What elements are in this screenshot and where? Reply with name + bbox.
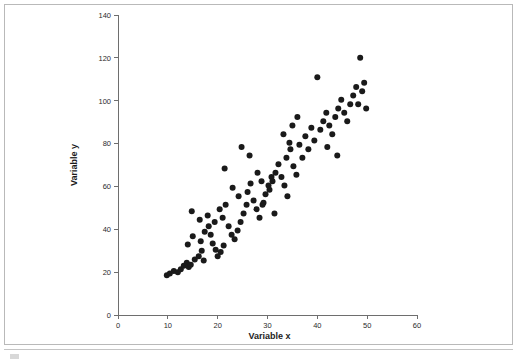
data-point [254, 206, 260, 212]
data-point [308, 125, 314, 131]
data-point [361, 80, 367, 86]
data-point [248, 180, 254, 186]
data-point [293, 172, 299, 178]
data-point [326, 123, 332, 129]
data-point [286, 140, 292, 146]
x-tick-label: 10 [164, 321, 172, 330]
data-point [305, 146, 311, 152]
y-tick-label: 100 [98, 97, 111, 106]
data-point [311, 138, 317, 144]
data-point [353, 84, 359, 90]
data-point [210, 240, 216, 246]
data-point [226, 223, 232, 229]
data-point [261, 200, 267, 206]
footer-mark [10, 354, 19, 359]
data-point [245, 189, 251, 195]
y-tick-label: 80 [103, 139, 111, 148]
y-tick-label: 120 [98, 54, 111, 63]
data-point [208, 232, 214, 238]
x-tick-label: 60 [413, 321, 421, 330]
x-tick-label: 20 [213, 321, 221, 330]
data-point [271, 210, 277, 216]
data-point [280, 131, 286, 137]
x-tick-label: 40 [313, 321, 321, 330]
data-point [290, 163, 296, 169]
data-point [302, 133, 308, 139]
data-point [189, 208, 195, 214]
data-point [198, 238, 204, 244]
data-point [185, 242, 191, 248]
data-point [299, 155, 305, 161]
y-tick-label: 140 [98, 11, 111, 20]
data-point [259, 178, 265, 184]
data-point [247, 153, 253, 159]
data-point [230, 185, 236, 191]
data-point [329, 131, 335, 137]
data-point [188, 262, 194, 268]
data-point [283, 155, 289, 161]
data-point [223, 202, 229, 208]
data-point [190, 233, 196, 239]
x-tick-label: 50 [363, 321, 371, 330]
data-point [251, 198, 257, 204]
data-point [275, 161, 281, 167]
data-point [269, 178, 275, 184]
data-point [335, 105, 341, 111]
data-point [344, 118, 350, 124]
data-point [257, 215, 263, 221]
data-point [239, 144, 245, 150]
data-point [350, 93, 356, 99]
data-point [221, 243, 227, 249]
y-axis-title: Variable y [69, 144, 79, 186]
data-point [196, 253, 202, 259]
data-point [284, 193, 290, 199]
y-tick-label: 20 [103, 268, 111, 277]
data-point [363, 105, 369, 111]
footer-divider [4, 349, 513, 350]
figure-frame: 0204060801001201400102030405060Variable … [4, 4, 513, 345]
data-point [355, 101, 361, 107]
data-point [359, 88, 365, 94]
data-point [241, 210, 247, 216]
data-point [314, 74, 320, 80]
data-point [199, 248, 205, 254]
data-point [266, 187, 272, 193]
data-point [296, 142, 302, 148]
data-point [217, 206, 223, 212]
data-point [323, 110, 329, 116]
data-point [347, 101, 353, 107]
data-point [278, 174, 284, 180]
data-point [202, 229, 208, 235]
data-point [244, 202, 250, 208]
data-point [317, 127, 323, 133]
data-point [238, 219, 244, 225]
data-point [205, 213, 211, 219]
y-tick-label: 60 [103, 182, 111, 191]
data-point [338, 97, 344, 103]
x-tick-label: 0 [116, 321, 120, 330]
data-point [281, 183, 287, 189]
data-point [222, 165, 228, 171]
data-point [232, 236, 238, 242]
data-point [236, 193, 242, 199]
data-point [287, 146, 293, 152]
data-point [197, 217, 203, 223]
data-point [341, 110, 347, 116]
data-point [320, 118, 326, 124]
data-point [294, 114, 300, 120]
y-tick-label: 40 [103, 225, 111, 234]
data-point [220, 215, 226, 221]
data-point [334, 153, 340, 159]
data-point [332, 114, 338, 120]
data-point-group [164, 55, 369, 278]
data-point [212, 219, 218, 225]
y-tick-label: 0 [107, 311, 111, 320]
x-axis-title: Variable x [248, 331, 290, 341]
data-point [201, 258, 207, 264]
scatter-plot: 0204060801001201400102030405060Variable … [5, 5, 514, 346]
data-point [206, 223, 212, 229]
data-point [272, 170, 278, 176]
data-point [235, 228, 241, 234]
x-tick-label: 30 [263, 321, 271, 330]
data-point [255, 170, 261, 176]
